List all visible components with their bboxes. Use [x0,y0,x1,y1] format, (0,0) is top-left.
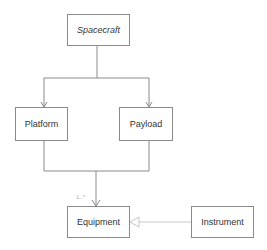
generalization-triangle-icon [130,217,139,227]
class-label: Payload [130,119,163,129]
class-platform[interactable]: Platform [15,107,68,141]
class-equipment[interactable]: Equipment [67,206,130,238]
class-label: Equipment [77,217,120,227]
class-label: Instrument [201,217,244,227]
class-payload[interactable]: Payload [119,107,173,141]
multiplicity-label: 1..* [76,194,85,200]
class-spacecraft[interactable]: Spacecraft [67,14,130,46]
class-label: Platform [25,119,59,129]
class-instrument[interactable]: Instrument [191,206,254,238]
class-label: Spacecraft [77,25,120,35]
